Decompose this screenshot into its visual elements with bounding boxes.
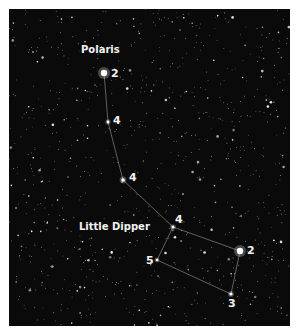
magnitude-label: 4 bbox=[113, 114, 121, 127]
star-kochab bbox=[237, 248, 243, 254]
constellation-lines bbox=[104, 73, 240, 294]
star-star-2 bbox=[107, 121, 110, 124]
star-map bbox=[9, 9, 290, 326]
star-star-7 bbox=[156, 259, 159, 262]
star-field bbox=[9, 9, 290, 326]
constellation-label: Little Dipper bbox=[79, 221, 150, 232]
star-pherkad bbox=[229, 292, 232, 295]
star-polaris bbox=[101, 70, 107, 76]
magnitude-label: 4 bbox=[175, 213, 183, 226]
magnitude-label: 3 bbox=[228, 297, 236, 310]
magnitude-label: 2 bbox=[247, 244, 255, 257]
polaris-label: Polaris bbox=[81, 44, 120, 55]
background-stars bbox=[9, 9, 290, 326]
labeled-stars bbox=[98, 67, 246, 297]
magnitude-label: 2 bbox=[111, 67, 119, 80]
magnitude-label: 5 bbox=[146, 254, 154, 267]
magnitude-label: 4 bbox=[129, 171, 137, 184]
star-star-3 bbox=[121, 178, 125, 182]
